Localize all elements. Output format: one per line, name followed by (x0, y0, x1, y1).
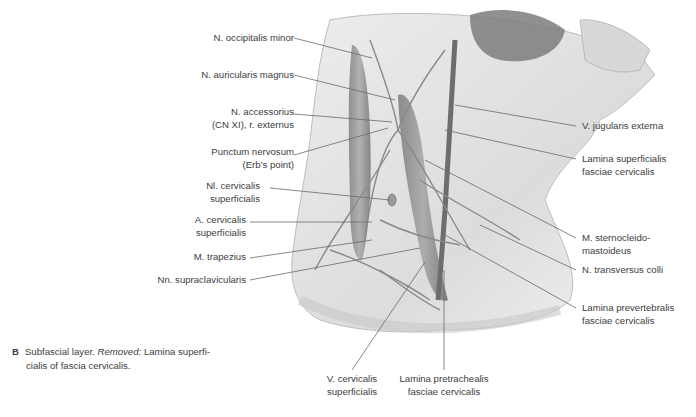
label-text: A. cervicalis (195, 214, 246, 227)
label-punctum-nervosum: Punctum nervosum (Erb’s point) (211, 146, 294, 171)
caption-text: Subfascial layer. (25, 346, 95, 357)
label-lamina-prevertebralis: Lamina prevertebralis fasciae cervicalis (582, 302, 674, 327)
label-lamina-pretrachealis: Lamina pretrachealis fasciae cervicalis (394, 373, 494, 398)
label-text: N. accessorius (212, 106, 294, 119)
label-nl-cervicalis-superficialis: Nl. cervicalis superficialis (206, 180, 260, 205)
label-text: M. sternocleido- (582, 232, 650, 245)
label-text: fasciae cervicalis (582, 166, 666, 179)
label-text: Lamina prevertebralis (582, 302, 674, 315)
caption-text-2: Lamina superfi- (144, 346, 210, 357)
label-text: Lamina superficialis (582, 153, 666, 166)
label-text: fasciae cervicalis (582, 315, 674, 328)
label-text: N. transversus colli (582, 264, 663, 275)
label-n-occipitalis-minor: N. occipitalis minor (213, 32, 294, 45)
figure-caption: BSubfascial layer. Removed: Lamina super… (12, 345, 242, 373)
label-text: superficialis (195, 227, 246, 240)
label-text: Lamina pretrachealis (394, 373, 494, 386)
label-text: V. cervicalis (310, 373, 394, 386)
caption-line-2: cialis of fascia cervicalis. (12, 359, 242, 373)
label-text: superficialis (310, 386, 394, 399)
label-text: N. occipitalis minor (213, 32, 294, 43)
label-text: M. trapezius (194, 251, 246, 262)
label-n-auricularis-magnus: N. auricularis magnus (201, 69, 294, 82)
label-n-accessorius: N. accessorius (CN XI), r. externus (212, 106, 294, 131)
anatomy-figure: N. occipitalis minor N. auricularis magn… (0, 0, 696, 417)
label-text: (Erb’s point) (211, 159, 294, 172)
label-m-trapezius: M. trapezius (194, 251, 246, 264)
label-text: Nl. cervicalis (206, 180, 260, 193)
label-text: (CN XI), r. externus (212, 119, 294, 132)
caption-removed: Removed: (97, 346, 141, 357)
label-v-cervicalis-superficialis: V. cervicalis superficialis (310, 373, 394, 398)
label-lamina-superficialis: Lamina superficialis fasciae cervicalis (582, 153, 666, 178)
figure-letter: B (12, 346, 19, 357)
label-text: N. auricularis magnus (201, 69, 294, 80)
label-m-sternocleidomastoideus: M. sternocleido- mastoideus (582, 232, 650, 257)
label-text: Punctum nervosum (211, 146, 294, 159)
label-n-transversus-colli: N. transversus colli (582, 264, 663, 277)
label-text: Nn. supraclavicularis (157, 274, 246, 285)
label-nn-supraclavicularis: Nn. supraclavicularis (157, 274, 246, 287)
label-text: superficialis (206, 193, 260, 206)
label-text: fasciae cervicalis (394, 386, 494, 399)
label-text: mastoideus (582, 245, 650, 258)
label-a-cervicalis-superficialis: A. cervicalis superficialis (195, 214, 246, 239)
label-text: V. jugularis externa (582, 120, 663, 131)
label-v-jugularis-externa: V. jugularis externa (582, 120, 663, 133)
